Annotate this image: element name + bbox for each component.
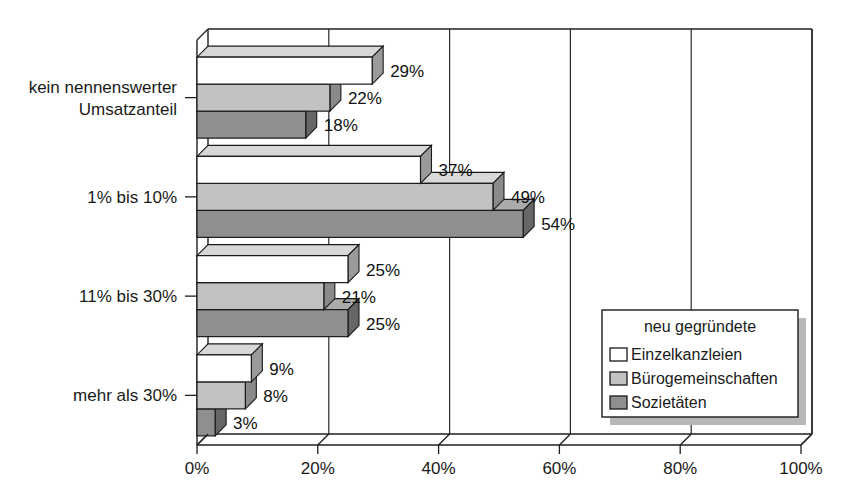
y-axis-category-labels: kein nennenswerterUmsatzanteil1% bis 10%… <box>29 78 197 406</box>
legend-swatch-0 <box>610 348 627 361</box>
bar-top-face <box>197 46 383 57</box>
bar-front-face <box>197 183 493 210</box>
bar-front-face <box>197 382 245 409</box>
bar-front-face <box>197 57 372 84</box>
bar-front-face <box>197 111 306 138</box>
value-label-einzelkanzleien-1: 37% <box>438 161 472 180</box>
x-tick-label-100: 100% <box>779 459 822 478</box>
y-category-label-1: 1% bis 10% <box>87 188 177 207</box>
value-label-einzelkanzleien-0: 29% <box>390 62 424 81</box>
bar-front-face <box>197 409 215 436</box>
bar-front-face <box>197 355 251 382</box>
bar-0-1 <box>197 145 431 183</box>
value-label-sozietäten-2: 25% <box>366 315 400 334</box>
bar-front-face <box>197 256 348 283</box>
x-tick-label-80: 80% <box>663 459 697 478</box>
y-category-label-0: kein nennenswerter <box>29 78 178 97</box>
bar-front-face <box>197 283 324 310</box>
legend-label-2: Sozietäten <box>631 394 707 411</box>
bar-chart: 0%20%40%60%80%100% kein nennenswerterUms… <box>0 0 862 501</box>
bar-0-0 <box>197 46 383 84</box>
x-tick-label-0: 0% <box>185 459 210 478</box>
value-label-einzelkanzleien-2: 25% <box>366 261 400 280</box>
legend-label-1: Bürogemeinschaften <box>631 370 778 387</box>
legend-swatch-2 <box>610 396 627 409</box>
value-label-sozietäten-1: 54% <box>541 215 575 234</box>
x-tick-20 <box>318 434 329 445</box>
value-label-bürogemeinschaften-1: 49% <box>511 188 545 207</box>
bar-front-face <box>197 156 420 183</box>
bar-front-face <box>197 84 330 111</box>
bar-front-face <box>197 310 348 337</box>
wall-top-left-edge <box>197 29 208 40</box>
bar-0-2 <box>197 245 359 283</box>
bar-top-face <box>197 245 359 256</box>
bar-front-face <box>197 210 523 237</box>
bar-0-3 <box>197 344 262 382</box>
y-category-label-3: mehr als 30% <box>73 386 177 405</box>
x-tick-80 <box>680 434 691 445</box>
value-label-bürogemeinschaften-3: 8% <box>263 387 288 406</box>
value-label-einzelkanzleien-3: 9% <box>269 360 294 379</box>
bar-top-face <box>197 145 431 156</box>
x-tick-40 <box>439 434 450 445</box>
x-tick-label-40: 40% <box>422 459 456 478</box>
legend-label-0: Einzelkanzleien <box>631 346 742 363</box>
x-axis-tick-labels: 0%20%40%60%80%100% <box>185 434 823 478</box>
legend-title: neu gegründete <box>644 318 756 335</box>
chart-container: 0%20%40%60%80%100% kein nennenswerterUms… <box>0 0 862 501</box>
value-label-sozietäten-0: 18% <box>324 116 358 135</box>
x-tick-label-60: 60% <box>542 459 576 478</box>
value-label-sozietäten-3: 3% <box>233 414 258 433</box>
y-category-label-2: 11% bis 30% <box>79 287 177 306</box>
value-label-bürogemeinschaften-2: 21% <box>342 288 376 307</box>
legend-swatch-1 <box>610 372 627 385</box>
x-tick-100 <box>801 434 812 445</box>
y-category-label-0: Umsatzanteil <box>79 100 177 119</box>
x-tick-60 <box>559 434 570 445</box>
x-tick-label-20: 20% <box>301 459 335 478</box>
chart-legend: neu gegründeteEinzelkanzleienBürogemeins… <box>602 310 806 425</box>
value-label-bürogemeinschaften-0: 22% <box>348 89 382 108</box>
